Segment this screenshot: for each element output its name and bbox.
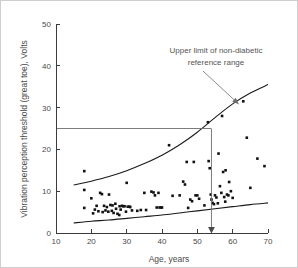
scatter-chart: 10203040506070 01020304050 Age, years Vi… [1,1,298,268]
y-axis-tick-labels: 01020304050 [42,20,51,238]
data-point [111,204,114,207]
data-point [242,100,245,103]
y-tick-label-30: 30 [42,104,51,113]
data-point [223,196,226,199]
y-tick-label-0: 0 [47,229,52,238]
x-tick-label-10: 10 [52,237,61,246]
data-point [104,209,107,212]
data-point [83,170,86,173]
data-point [213,203,216,206]
data-point [155,206,158,209]
annotation-leader-line [203,71,239,104]
data-point [221,115,224,118]
data-point [187,207,190,210]
data-point [108,193,111,196]
x-axis-title: Age, years [149,254,190,264]
data-point [208,167,211,170]
y-tick-label-20: 20 [42,145,51,154]
data-point [112,212,115,215]
annotation-line-2: reference range [188,58,245,67]
data-point [114,202,117,205]
data-point [101,211,104,214]
data-point [182,180,185,183]
data-point [125,210,128,213]
x-tick-label-30: 30 [122,237,131,246]
y-axis-title: Vibration perception threshold (great to… [19,40,29,218]
data-point [106,206,109,209]
data-point [224,169,227,172]
figure-container: 10203040506070 01020304050 Age, years Vi… [0,0,298,268]
data-point [249,187,252,190]
data-point [168,144,171,147]
data-point [215,196,218,199]
data-point [220,192,223,195]
y-tick-label-50: 50 [42,20,51,29]
data-point [193,161,196,164]
data-point [217,152,220,155]
data-point [125,182,128,185]
data-point [101,193,104,196]
data-point [207,160,210,163]
data-point [228,181,231,184]
data-point [119,208,122,211]
data-point [219,185,222,188]
data-point [95,205,98,208]
data-point [107,210,110,213]
x-tick-label-20: 20 [87,237,96,246]
data-point [83,207,86,210]
data-point [157,192,160,195]
data-point [227,194,230,197]
data-point [263,165,266,168]
data-point [154,194,157,197]
x-tick-label-60: 60 [228,237,237,246]
data-point [246,136,249,139]
data-point [198,197,201,200]
data-point [83,189,86,192]
data-point-group [83,100,266,216]
data-point [230,190,233,193]
data-point [203,204,206,207]
data-point [115,207,118,210]
data-point [118,205,121,208]
data-point [92,212,95,215]
data-point [90,197,93,200]
data-point [178,194,181,197]
data-point [184,183,187,186]
data-point [97,210,100,213]
data-point [129,206,132,209]
data-point [131,209,134,212]
x-tick-label-50: 50 [193,237,202,246]
upper-limit-curve [74,85,268,185]
data-point [222,171,225,174]
data-point [224,200,227,203]
y-tick-label-10: 10 [42,187,51,196]
data-point [140,209,143,212]
data-point [217,202,220,205]
x-axis-ticks [56,229,268,233]
annotation-line-1: Upper limit of non-diabetic [170,46,263,55]
data-point [256,157,259,160]
data-point [185,161,188,164]
data-point [123,205,126,208]
data-point [143,192,146,195]
data-point [171,194,174,197]
x-tick-label-40: 40 [158,237,167,246]
data-point [152,191,155,194]
y-tick-label-40: 40 [42,62,51,71]
data-point [136,210,139,213]
data-point [231,197,234,200]
data-point [191,200,194,203]
data-point [103,205,106,208]
data-point [145,209,148,212]
data-point [94,208,97,211]
data-point [196,194,199,197]
data-point [161,206,164,209]
x-axis-tick-labels: 10203040506070 [52,237,273,246]
data-point [118,214,121,217]
x-tick-label-70: 70 [264,237,273,246]
